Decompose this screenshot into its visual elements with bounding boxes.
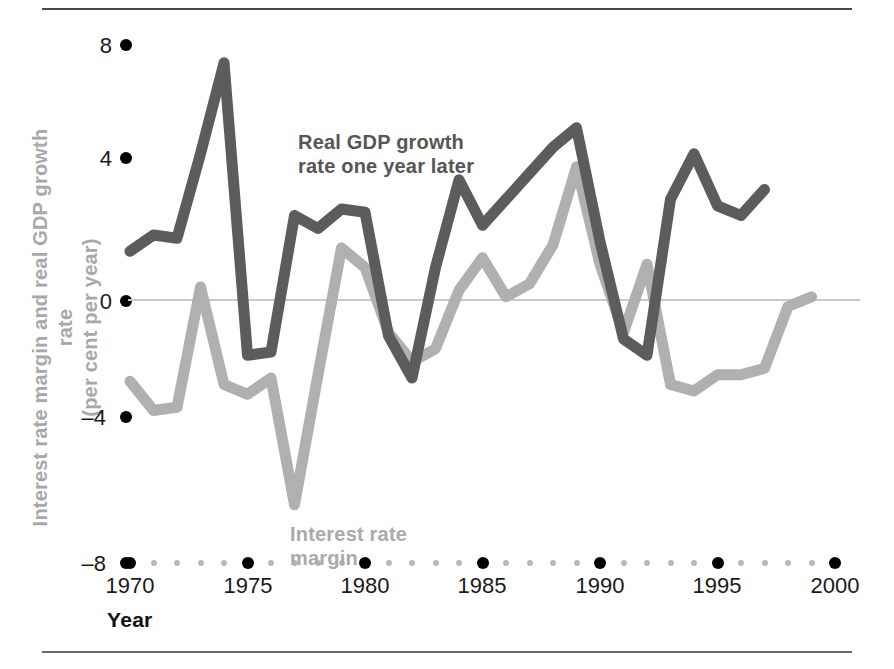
figure-container: Interest rate margin and real GDP growth… bbox=[0, 0, 894, 669]
plot-area bbox=[0, 0, 894, 669]
